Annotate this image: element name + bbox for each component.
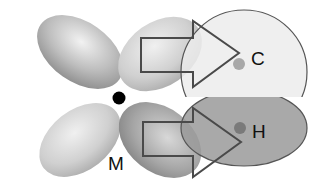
hydrogen-atom-dot xyxy=(234,122,246,134)
orbital-interaction-diagram: M C H xyxy=(0,0,320,195)
carbon-label: C xyxy=(251,48,265,69)
orbital-lobe-top-left xyxy=(23,0,136,104)
metal-label: M xyxy=(108,153,124,174)
metal-center-dot xyxy=(113,92,126,105)
hydrogen-label: H xyxy=(252,121,266,142)
c-h-sigma-orbital xyxy=(181,10,307,166)
carbon-atom-dot xyxy=(233,58,245,70)
